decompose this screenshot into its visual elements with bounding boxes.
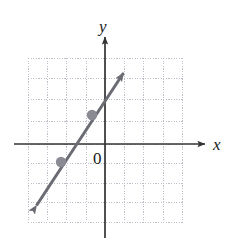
figure-root: y x 0	[0, 0, 233, 250]
origin-label: 0	[93, 149, 102, 168]
x-axis-label: x	[212, 135, 221, 154]
coordinate-graph: y x 0	[0, 0, 233, 250]
figure-background	[0, 0, 233, 250]
data-point	[56, 157, 66, 167]
data-point	[87, 110, 97, 120]
y-axis-label: y	[97, 17, 107, 36]
